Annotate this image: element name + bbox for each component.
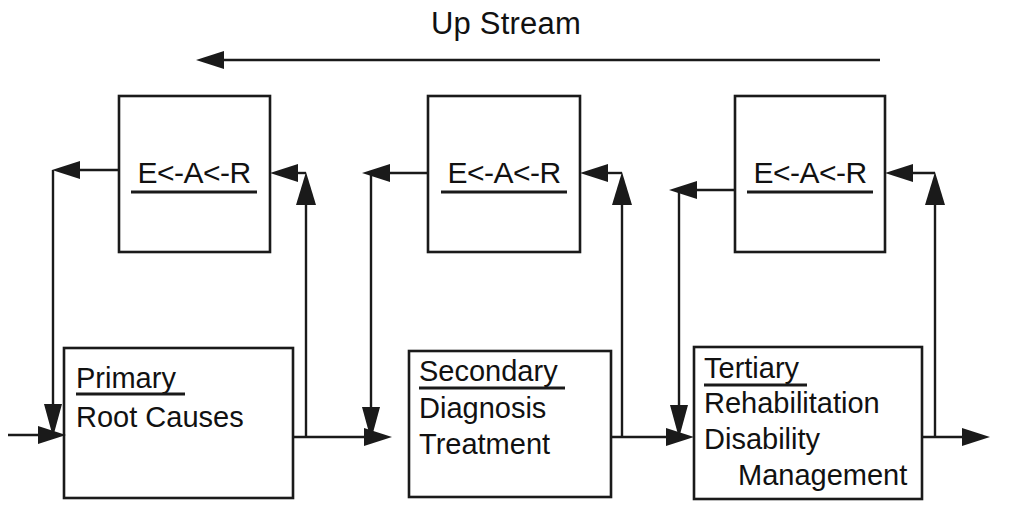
link-secondary-to-tertiary xyxy=(611,428,694,446)
outbound-arrow-tertiary xyxy=(922,428,990,446)
stage-box-tertiary: Tertiary Rehabilitation Disability Manag… xyxy=(694,347,922,499)
stage-tertiary-heading: Tertiary xyxy=(704,352,800,384)
diagram-title: Up Stream xyxy=(431,6,581,41)
flow-diagram-svg: E<-A<-R E<-A<-R E<-A<-R Primary Root Cau… xyxy=(0,0,1013,530)
diagram-canvas: E<-A<-R E<-A<-R E<-A<-R Primary Root Cau… xyxy=(0,0,1013,530)
stage-tertiary-line-2: Management xyxy=(738,459,907,491)
stage-secondary-line-0: Diagnosis xyxy=(419,392,546,424)
stage-box-secondary: Secondary Diagnosis Treatment xyxy=(409,351,611,497)
ear-box-1: E<-A<-R xyxy=(119,96,270,252)
stage-secondary-heading: Secondary xyxy=(419,355,558,387)
stage-tertiary-line-0: Rehabilitation xyxy=(704,387,880,419)
stage-primary-heading: Primary xyxy=(76,362,176,394)
ear-box-1-label: E<-A<-R xyxy=(137,156,250,189)
ear-box-3-label: E<-A<-R xyxy=(753,156,866,189)
link-primary-to-secondary xyxy=(293,428,392,446)
inbound-arrow-primary xyxy=(8,426,66,444)
stage-secondary-line-1: Treatment xyxy=(419,428,550,460)
stage-primary-line-0: Root Causes xyxy=(76,401,244,433)
stage-box-primary: Primary Root Causes xyxy=(64,348,293,498)
up-stream-arrow xyxy=(196,51,880,69)
ear-box-2: E<-A<-R xyxy=(428,96,580,252)
ear-box-3: E<-A<-R xyxy=(735,96,885,252)
ear-box-2-label: E<-A<-R xyxy=(447,156,560,189)
stage-tertiary-line-1: Disability xyxy=(704,423,821,455)
